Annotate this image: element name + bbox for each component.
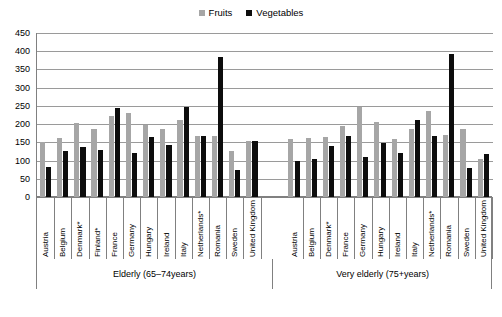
bar-fruits [177,120,182,197]
bar-fruits [340,126,345,197]
bar-vegetables [166,145,171,197]
legend-item-fruits: Fruits [199,8,233,18]
category-cell: Netherlands* [193,197,210,259]
category-cell: Germany [124,197,141,259]
y-axis-tick-100: 100 [15,156,30,165]
category-label: Hungary [145,227,153,257]
category-label: Sweden [463,228,471,257]
bar-fruits [392,139,397,197]
bar-vegetables [329,146,334,197]
category-label: Italy [180,242,188,257]
category-label: Sweden [231,228,239,257]
category-label: Denmark* [325,221,333,257]
category-cell: Germany [355,197,372,259]
category-cell: Netherlands* [424,197,441,259]
bar-vegetables [184,107,189,197]
bar-vegetables [115,108,120,197]
bar-vegetables [218,57,223,197]
bar-vegetables [449,54,454,197]
group-label-strip: Elderly (65–74years)Very elderly (75+yea… [36,259,492,289]
bar-vegetables [252,141,257,197]
category-label: Belgium [308,228,316,257]
category-cell: United Kingdom [476,197,493,259]
category-cell: Romania [210,197,227,259]
category-cell: Belgium [304,197,321,259]
y-axis-tick-50: 50 [20,174,30,183]
bar-fruits [109,116,114,197]
y-axis-tick-350: 350 [15,65,30,74]
category-label: France [342,232,350,257]
category-label: Hungary [377,227,385,257]
bar-fruits [126,113,131,197]
bar-vegetables [201,136,206,197]
bar-fruits [40,142,45,197]
category-cell: Austria [38,197,55,259]
bar-vegetables [432,136,437,197]
bar-fruits [306,138,311,197]
category-label: Austria [291,232,299,257]
legend-item-vegetables: Vegetables [246,8,303,18]
bar-vegetables [381,143,386,197]
category-cell: Finland* [90,197,107,259]
legend-swatch-vegetables [246,10,252,16]
bar-fruits [143,125,148,197]
bar-vegetables [484,154,489,197]
bars-layer [37,33,492,197]
y-axis-tick-300: 300 [15,83,30,92]
category-label: Finland* [94,228,102,257]
category-label: Austria [42,232,50,257]
category-label: United Kingdom [249,200,257,257]
bar-fruits [460,129,465,197]
category-cell: Belgium [55,197,72,259]
category-label: Germany [128,224,136,257]
legend-label-vegetables: Vegetables [256,8,303,18]
y-axis-tick-150: 150 [15,138,30,147]
bar-vegetables [467,168,472,197]
category-cell: Ireland [158,197,175,259]
bar-fruits [57,138,62,197]
chart-legend: Fruits Vegetables [0,8,502,18]
bar-fruits [443,135,448,197]
category-cell: Romania [441,197,458,259]
bar-vegetables [132,153,137,197]
bar-vegetables [46,167,51,197]
bar-fruits [74,123,79,197]
y-axis-tick-250: 250 [15,101,30,110]
category-label: Ireland [163,233,171,257]
category-cell: Italy [407,197,424,259]
group-label-elderly: Elderly (65–74years) [37,259,273,289]
category-cell: United Kingdom [244,197,261,259]
y-axis-tick-200: 200 [15,120,30,129]
bar-vegetables [235,170,240,197]
category-cell: France [338,197,355,259]
bar-vegetables [312,159,317,197]
bar-vegetables [295,161,300,197]
category-label: Romania [445,225,453,257]
category-label: Netherlands* [197,211,205,257]
legend-swatch-fruits [199,10,205,16]
category-cell: France [107,197,124,259]
bar-vegetables [98,150,103,197]
bar-vegetables [149,137,154,197]
legend-label-fruits: Fruits [209,8,233,18]
category-cell: Sweden [227,197,244,259]
category-label: Denmark* [76,221,84,257]
bar-fruits [478,159,483,197]
category-label: Ireland [394,233,402,257]
category-label: Romania [214,225,222,257]
bar-chart: Fruits Vegetables 0501001502002503003504… [0,0,502,317]
y-axis-tick-400: 400 [15,47,30,56]
category-label: Italy [411,242,419,257]
bar-fruits [160,129,165,197]
category-label: Belgium [59,228,67,257]
bar-vegetables [363,157,368,197]
bar-fruits [288,139,293,197]
bar-vegetables [346,136,351,197]
bar-fruits [229,151,234,197]
y-axis-labels: 050100150200250300350400450 [0,33,34,197]
category-cell: Denmark* [72,197,89,259]
bar-vegetables [415,120,420,197]
bar-fruits [195,136,200,197]
category-cell: Ireland [390,197,407,259]
bar-fruits [91,129,96,198]
